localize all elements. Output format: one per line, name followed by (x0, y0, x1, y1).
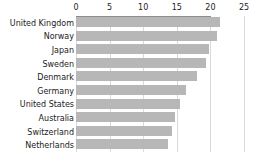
x-tick-label: 10 (138, 3, 148, 12)
bar-row: Germany (0, 84, 262, 98)
bar (76, 58, 206, 68)
category-label: Switzerland (27, 127, 74, 136)
bar-rows: United KingdomNorwayJapanSwedenDenmarkGe… (0, 16, 262, 152)
bar-row: Japan (0, 43, 262, 57)
category-label: Sweden (42, 59, 74, 68)
category-label: United Kingdom (10, 18, 74, 27)
bar-row: Denmark (0, 70, 262, 84)
bar (76, 17, 220, 27)
category-label: Denmark (37, 73, 74, 82)
bar-row: United States (0, 98, 262, 112)
category-label: Netherlands (25, 141, 74, 150)
bar (76, 31, 217, 41)
bar-row: United Kingdom (0, 16, 262, 30)
category-label: Australia (39, 113, 74, 122)
x-tick-label: 25 (239, 3, 249, 12)
bar (76, 112, 175, 122)
category-label: Norway (44, 32, 74, 41)
bar (76, 44, 209, 54)
bar-row: Netherlands (0, 138, 262, 152)
bar (76, 139, 168, 149)
bar-row: Switzerland (0, 125, 262, 139)
x-tick-label: 0 (73, 3, 78, 12)
bar (76, 126, 172, 136)
bar (76, 85, 186, 95)
bar-row: Norway (0, 30, 262, 44)
category-label: Japan (52, 45, 74, 54)
x-tick-label: 15 (172, 3, 182, 12)
x-tick-label: 20 (205, 3, 215, 12)
bar (76, 71, 197, 81)
category-label: United States (20, 100, 74, 109)
x-tick-label: 5 (107, 3, 112, 12)
bar-row: Australia (0, 111, 262, 125)
bar-chart: 0510152025 United KingdomNorwayJapanSwed… (0, 0, 262, 152)
bar (76, 99, 180, 109)
bar-row: Sweden (0, 57, 262, 71)
category-label: Germany (37, 86, 74, 95)
